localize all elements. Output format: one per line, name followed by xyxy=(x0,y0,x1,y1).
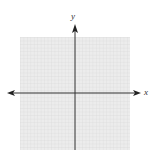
coordinate-plane xyxy=(0,0,150,156)
x-axis-label: x xyxy=(144,88,148,97)
y-axis-label: y xyxy=(71,12,75,21)
